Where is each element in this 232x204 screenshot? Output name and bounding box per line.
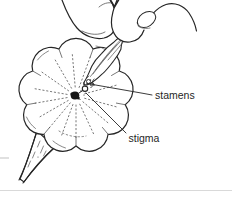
label-stamens: stamens bbox=[155, 89, 195, 101]
index-finger bbox=[112, 0, 212, 42]
label-stigma: stigma bbox=[129, 132, 160, 144]
thumb bbox=[62, 0, 116, 39]
flower-emasculation-diagram: stamens stigma bbox=[0, 0, 232, 204]
illustration-canvas: stamens stigma bbox=[0, 0, 232, 204]
pinching-fingers-illustration bbox=[62, 0, 212, 42]
calyx-texture-dot bbox=[37, 156, 38, 157]
